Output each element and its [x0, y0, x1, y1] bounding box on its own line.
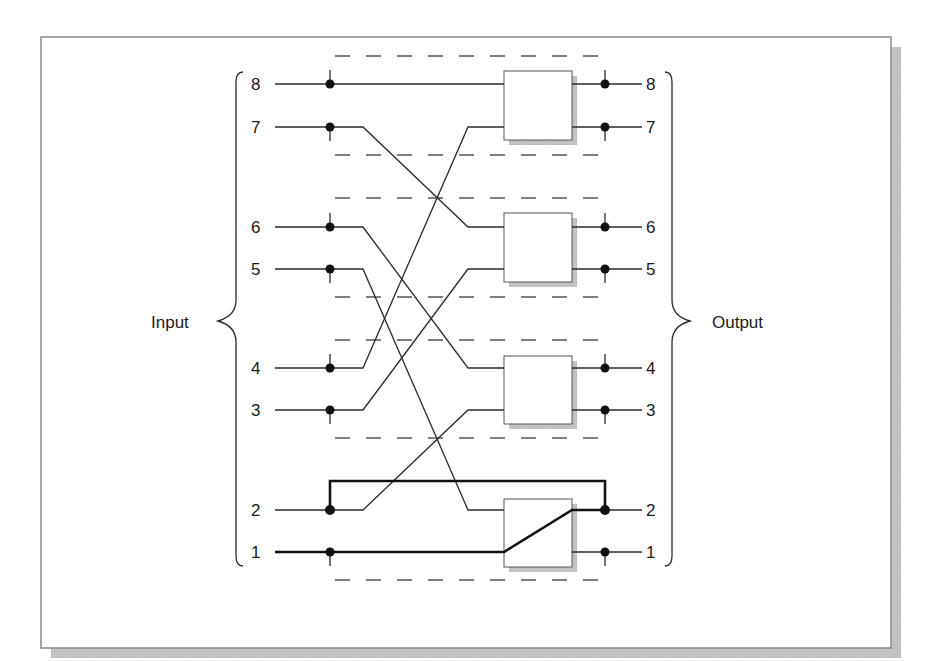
switch-box-2: [504, 213, 572, 282]
switch-box-3: [504, 356, 572, 424]
input-port-label: 4: [251, 359, 260, 378]
output-port-label: 4: [646, 359, 655, 378]
switch-box-1: [504, 71, 572, 140]
input-port-label: 1: [251, 543, 260, 562]
switch-network-diagram: 8 7 6 5 4 3 2 1 8 7 6 5 4 3 2 1 Input Ou…: [0, 0, 936, 661]
input-label: Input: [151, 313, 189, 332]
input-port-label: 2: [251, 501, 260, 520]
output-port-label: 3: [646, 401, 655, 420]
output-port-label: 1: [646, 543, 655, 562]
output-port-label: 7: [646, 118, 655, 137]
input-port-label: 6: [251, 218, 260, 237]
input-port-label: 5: [251, 260, 260, 279]
frame-border: [41, 37, 891, 648]
input-port-label: 3: [251, 401, 260, 420]
input-port-label: 8: [251, 75, 260, 94]
frame: [41, 37, 901, 658]
output-port-label: 2: [646, 501, 655, 520]
output-port-label: 5: [646, 260, 655, 279]
output-port-label: 6: [646, 218, 655, 237]
switch-box-4: [504, 499, 572, 567]
output-label: Output: [712, 313, 763, 332]
input-port-label: 7: [251, 118, 260, 137]
output-port-label: 8: [646, 75, 655, 94]
